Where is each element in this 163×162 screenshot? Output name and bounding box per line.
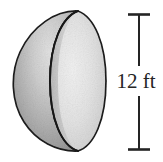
dimension-label: 12 ft: [108, 66, 163, 96]
hemisphere-figure: 12 ft: [0, 0, 163, 162]
